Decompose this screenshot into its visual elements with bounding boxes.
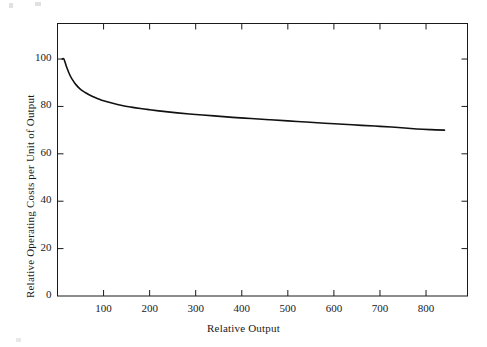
line-chart-plot xyxy=(0,0,487,347)
plot-frame xyxy=(58,24,468,297)
x-axis-tick-marks-top xyxy=(104,24,426,30)
x-axis-tick-label: 700 xyxy=(360,302,400,314)
y-axis-title: Relative Operating Costs per Unit of Out… xyxy=(24,94,36,298)
data-series-line xyxy=(62,58,444,130)
x-axis-title: Relative Output xyxy=(0,322,487,334)
x-axis-tick-marks xyxy=(104,290,426,296)
y-axis-tick-label: 100 xyxy=(22,51,52,63)
x-axis-tick-label: 200 xyxy=(130,302,170,314)
y-axis-tick-marks-right xyxy=(462,59,468,249)
x-axis-tick-label: 500 xyxy=(268,302,308,314)
x-axis-tick-label: 800 xyxy=(406,302,446,314)
x-axis-tick-label: 100 xyxy=(84,302,124,314)
x-axis-tick-label: 400 xyxy=(222,302,262,314)
figure-canvas: 100200300400500600700800 020406080100 Re… xyxy=(0,0,487,347)
y-axis-tick-marks xyxy=(58,59,64,249)
x-axis-tick-label: 600 xyxy=(314,302,354,314)
x-axis-tick-label: 300 xyxy=(176,302,216,314)
